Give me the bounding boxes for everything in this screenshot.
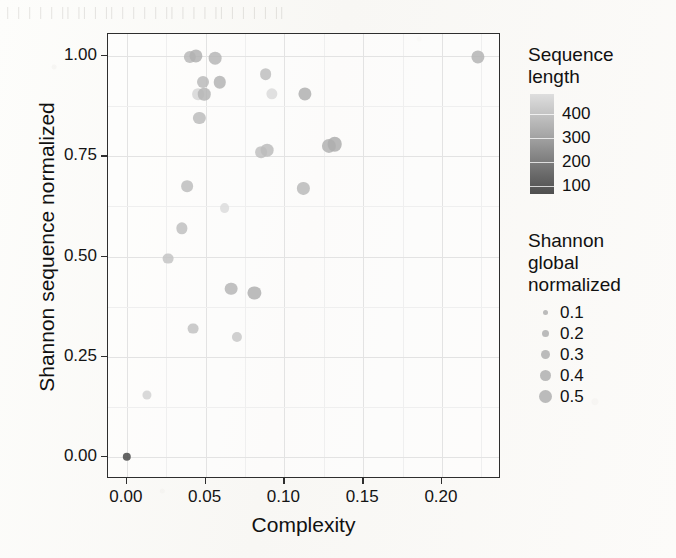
y-tick-mark [101,256,107,257]
gridline-horizontal [108,156,499,157]
x-tick-mark [283,478,284,484]
data-point [266,88,277,99]
y-tick-label: 0.50 [64,246,97,266]
size-legend-title-line2: global [528,252,668,274]
gridline-horizontal [108,307,499,308]
x-tick-label: 0.05 [188,487,221,507]
data-point [162,253,173,264]
gridline-horizontal [108,106,499,107]
data-point [193,112,205,124]
x-tick-label: 0.10 [267,487,300,507]
x-tick-mark [205,478,206,484]
colorbar-tick [530,114,554,115]
gridline-horizontal [108,457,499,458]
colorbar-tick [530,162,554,163]
size-legend-items: 0.10.20.30.40.5 [528,302,668,407]
gridline-vertical [127,34,128,477]
x-tick-mark [441,478,442,484]
color-legend-title: Sequence length [528,44,668,87]
x-tick-mark [362,478,363,484]
data-point [261,144,274,157]
size-legend-dot [541,350,550,359]
size-legend-dot-cell [530,330,560,337]
data-point [209,52,222,65]
y-tick-mark [101,456,107,457]
data-point [220,203,230,213]
size-legend-item: 0.2 [530,323,668,344]
data-point [260,68,272,80]
gridline-vertical [442,34,443,477]
data-point [298,88,311,101]
data-point [143,390,152,399]
data-point [188,323,199,334]
colorbar-tick [530,186,554,187]
color-legend-title-line1: Sequence [528,44,668,66]
gridline-vertical [284,34,285,477]
y-tick-label: 0.75 [64,145,97,165]
data-point [176,223,187,234]
size-legend-label: 0.4 [560,366,584,386]
x-tick-label: 0.20 [424,487,457,507]
data-point [225,282,238,295]
x-axis-label: Complexity [107,513,500,537]
data-point [198,88,210,100]
y-tick-label: 0.25 [64,346,97,366]
colorbar-tick-label: 400 [562,104,590,124]
color-legend-title-line2: length [528,66,668,88]
gridline-horizontal [108,357,499,358]
data-point [297,182,309,194]
y-tick-label: 1.00 [64,45,97,65]
size-legend-item: 0.3 [530,344,668,365]
size-legend: Shannon global normalized 0.10.20.30.40.… [528,230,668,407]
size-legend-item: 0.1 [530,302,668,323]
scatter-plot-figure: 0.000.250.500.751.00 Complexity Shannon … [0,0,676,558]
data-point [181,180,193,192]
data-point [197,76,209,88]
y-axis-label: Shannon sequence normalized [35,37,59,457]
size-legend-title-line1: Shannon [528,230,668,252]
data-point [214,76,226,88]
size-legend-dot-cell [530,370,560,381]
size-legend-dot-cell [530,310,560,315]
y-tick-mark [101,155,107,156]
size-legend-label: 0.1 [560,303,584,323]
size-legend-dot [542,330,549,337]
y-tick-label: 0.00 [64,446,97,466]
colorbar-block: 400300200100 [530,94,668,200]
size-legend-dot-cell [530,390,560,403]
gridline-horizontal [108,56,499,57]
gridline-vertical [403,34,404,477]
x-tick-mark [126,478,127,484]
data-point [123,453,131,461]
data-point [190,49,203,62]
y-tick-mark [101,55,107,56]
gridline-vertical [363,34,364,477]
size-legend-dot-cell [530,350,560,359]
size-legend-title-line3: normalized [528,274,668,296]
size-legend-dot [543,310,548,315]
gridline-horizontal [108,407,499,408]
gridline-vertical [245,34,246,477]
gridline-vertical [206,34,207,477]
size-legend-dot [540,370,551,381]
colorbar-tick-label: 200 [562,152,590,172]
data-point [472,50,485,63]
size-legend-dot [539,390,552,403]
size-legend-item: 0.5 [530,386,668,407]
legend-column: Sequence length 400300200100 Shannon glo… [528,44,668,407]
data-point [328,137,343,152]
size-legend-label: 0.3 [560,345,584,365]
colorbar-tick-label: 100 [562,176,590,196]
gridline-vertical [481,34,482,477]
sequence-length-colorbar [530,94,554,194]
size-legend-label: 0.5 [560,387,584,407]
x-tick-label: 0.15 [346,487,379,507]
color-legend: Sequence length 400300200100 [528,44,668,200]
size-legend-item: 0.4 [530,365,668,386]
data-point [248,286,261,299]
size-legend-label: 0.2 [560,324,584,344]
x-tick-label: 0.00 [109,487,142,507]
plot-panel [107,33,500,478]
y-tick-mark [101,356,107,357]
size-legend-title: Shannon global normalized [528,230,668,295]
